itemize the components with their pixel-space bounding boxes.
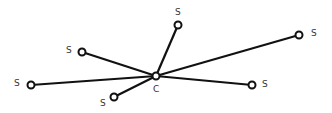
satellite-node: S — [296, 28, 318, 39]
nodes: SSSSSSC — [14, 7, 317, 108]
edge-line — [156, 76, 252, 85]
edge-line — [156, 25, 178, 76]
satellite-node: S — [175, 7, 182, 29]
node-label: S — [175, 7, 181, 17]
node-label: S — [66, 45, 72, 55]
node-circle — [249, 82, 256, 89]
center-node: C — [153, 73, 160, 95]
node-circle — [175, 22, 182, 29]
node-circle — [153, 73, 160, 80]
satellite-node: S — [14, 78, 35, 89]
node-label: S — [311, 28, 317, 38]
edge-line — [82, 52, 156, 76]
edges — [31, 25, 299, 97]
node-label: S — [100, 98, 106, 108]
satellite-node: S — [66, 45, 86, 56]
edge-line — [156, 35, 299, 76]
node-circle — [111, 94, 118, 101]
star-network-diagram: SSSSSSC — [0, 0, 332, 113]
node-circle — [296, 32, 303, 39]
edge-line — [31, 76, 156, 85]
satellite-node: S — [249, 79, 269, 89]
center-label: C — [153, 84, 159, 94]
node-label: S — [262, 79, 268, 89]
node-circle — [28, 82, 35, 89]
satellite-node: S — [100, 94, 118, 109]
node-circle — [79, 49, 86, 56]
node-label: S — [14, 78, 20, 88]
